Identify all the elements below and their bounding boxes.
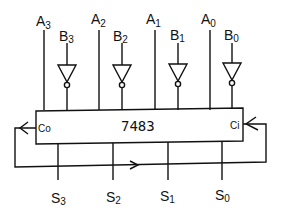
b3-label: B3 (59, 28, 74, 45)
s1-label: S1 (160, 188, 175, 205)
s0-label: S0 (215, 187, 230, 204)
b2-label: B2 (113, 28, 128, 45)
chip-label: 7483 (121, 118, 155, 134)
s3-label: S3 (51, 190, 66, 207)
s2-label: S2 (106, 189, 121, 206)
circuit-diagram: 7483 Co Ci A3 A2 A1 A0 B3 B2 B1 B0 S3 S2… (0, 0, 282, 216)
a0-label: A0 (201, 11, 216, 29)
a1-label: A1 (146, 11, 161, 29)
a2-label: A2 (91, 11, 106, 29)
b3-inverter (58, 43, 76, 110)
b0-inverter (223, 43, 241, 109)
b1-inverter (169, 43, 187, 110)
b2-inverter (113, 43, 131, 110)
carry-out-label: Co (38, 123, 51, 134)
b1-label: B1 (170, 27, 185, 44)
b0-label: B0 (224, 27, 239, 44)
a3-label: A3 (36, 13, 51, 31)
carry-in-label: Ci (230, 120, 239, 131)
